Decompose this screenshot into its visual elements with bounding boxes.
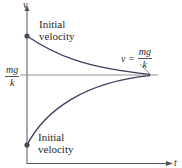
fraction-numerator: mg: [138, 47, 152, 59]
label-line-2: velocity: [38, 143, 73, 155]
x-axis-arrow-icon: [166, 161, 173, 166]
fraction-numerator: mg: [5, 65, 19, 77]
lower-initial-dot: [24, 142, 29, 147]
diagram-canvas: [0, 0, 182, 168]
fraction-denominator: k: [10, 77, 14, 88]
terminal-velocity-diagram: v t mg k v = mg k Initial velocity Initi…: [0, 0, 182, 168]
label-line-1: Initial: [39, 18, 74, 30]
asymptote-left-fraction: mg k: [5, 65, 19, 88]
x-axis-label: t: [174, 157, 177, 168]
upper-initial-dot: [24, 33, 29, 38]
label-line-2: velocity: [39, 30, 74, 42]
upper-initial-velocity-label: Initial velocity: [39, 18, 74, 42]
asymptote-right-fraction: mg k: [138, 47, 152, 70]
asymptote-right-label: v = mg k: [121, 47, 152, 70]
y-axis-label: v: [23, 0, 27, 11]
label-line-1: Initial: [38, 131, 73, 143]
asymptote-equation-prefix: v =: [121, 53, 135, 65]
fraction-denominator: k: [143, 59, 147, 70]
lower-initial-velocity-label: Initial velocity: [38, 131, 73, 155]
